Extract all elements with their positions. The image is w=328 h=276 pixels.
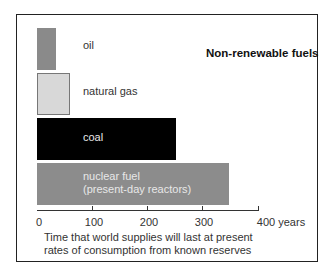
x-axis — [37, 210, 259, 211]
tick-label-200: 200 — [140, 216, 158, 228]
tick-300 — [202, 206, 203, 210]
tick-200 — [147, 206, 148, 210]
bar-coal — [37, 118, 176, 160]
x-axis-caption-line1: Time that world supplies will last at pr… — [44, 231, 253, 243]
label-nuclear-line2: (present-day reactors) — [83, 183, 191, 196]
tick-label-0: 0 — [36, 216, 42, 228]
tick-label-100: 100 — [85, 216, 103, 228]
tick-label-400: 400 years — [257, 216, 305, 228]
bar-oil — [37, 28, 56, 70]
tick-label-300: 300 — [195, 216, 213, 228]
chart-title: Non-renewable fuels — [206, 47, 318, 59]
tick-400 — [258, 206, 259, 210]
label-oil: oil — [83, 39, 94, 52]
bar-natural-gas — [37, 73, 70, 115]
label-nuclear-line1: nuclear fuel — [83, 170, 140, 183]
label-natural-gas: natural gas — [83, 85, 137, 98]
label-coal: coal — [83, 131, 103, 144]
x-axis-caption-line2: rates of consumption from known reserves — [44, 244, 251, 256]
tick-100 — [92, 206, 93, 210]
